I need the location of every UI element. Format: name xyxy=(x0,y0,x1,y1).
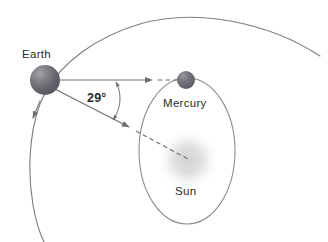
astronomy-diagram: Earth Mercury Sun 29° xyxy=(0,0,328,242)
sun-glow xyxy=(157,129,219,191)
elongation-angle-marker xyxy=(113,82,120,120)
mercury-body xyxy=(177,71,195,89)
sun-body xyxy=(157,129,219,191)
earth-sphere xyxy=(30,65,60,95)
elongation-angle-label: 29° xyxy=(87,91,107,105)
mercury-sphere xyxy=(177,71,195,89)
mercury-label: Mercury xyxy=(163,97,207,109)
earth-label: Earth xyxy=(22,48,51,60)
angle-arc-double-arrow xyxy=(113,82,120,120)
earth-orbit xyxy=(30,17,320,242)
earth-body xyxy=(30,65,60,95)
sun-label: Sun xyxy=(175,185,196,197)
diagram-canvas: Earth Mercury Sun 29° xyxy=(0,0,328,242)
earth-orbit-path xyxy=(30,17,320,242)
